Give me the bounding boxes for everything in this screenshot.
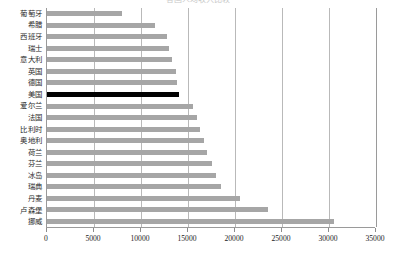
bar xyxy=(47,34,167,39)
axis-tick-label: 25000 xyxy=(272,234,291,243)
category-label: 葡萄牙 xyxy=(0,8,44,20)
bar xyxy=(47,69,176,74)
bar-row xyxy=(47,169,375,181)
axis-tick xyxy=(93,228,94,232)
category-label: 冰岛 xyxy=(0,170,44,182)
axis-tick-label: 15000 xyxy=(178,234,197,243)
bar xyxy=(47,127,200,132)
category-label: 德国 xyxy=(0,77,44,89)
bar xyxy=(47,80,177,85)
category-label: 西班牙 xyxy=(0,31,44,43)
axis-tick-label: 0 xyxy=(44,234,48,243)
category-label: 希腊 xyxy=(0,20,44,32)
bar-chart: 各国人均收入比较 葡萄牙希腊西班牙瑞士意大利英国德国美国爱尔兰法国比利时奥地利荷… xyxy=(0,0,395,256)
axis-tick xyxy=(375,228,376,232)
axis-tick xyxy=(46,228,47,232)
category-label: 瑞典 xyxy=(0,182,44,194)
bar xyxy=(47,23,155,28)
category-label: 比利时 xyxy=(0,124,44,136)
bar xyxy=(47,11,122,16)
bar xyxy=(47,138,204,143)
bar-row xyxy=(47,43,375,55)
category-label: 瑞士 xyxy=(0,43,44,55)
bar-row xyxy=(47,77,375,89)
bar-series xyxy=(47,8,375,227)
axis-tick-label: 35000 xyxy=(366,234,385,243)
axis-tick-label: 10000 xyxy=(131,234,150,243)
category-label: 意大利 xyxy=(0,54,44,66)
category-label: 丹麦 xyxy=(0,193,44,205)
category-axis-labels: 葡萄牙希腊西班牙瑞士意大利英国德国美国爱尔兰法国比利时奥地利荷兰芬兰冰岛瑞典丹麦… xyxy=(0,8,44,228)
bar-row xyxy=(47,8,375,20)
bar-highlighted xyxy=(47,92,179,97)
axis-tick-label: 20000 xyxy=(225,234,244,243)
category-label: 挪威 xyxy=(0,216,44,228)
value-axis: 05000100001500020000250003000035000 xyxy=(46,228,375,254)
category-label: 奥地利 xyxy=(0,135,44,147)
bar-row xyxy=(47,20,375,32)
bar-row xyxy=(47,100,375,112)
bar xyxy=(47,104,193,109)
bar-row xyxy=(47,112,375,124)
bar-row xyxy=(47,54,375,66)
bar-row xyxy=(47,123,375,135)
plot-area xyxy=(46,8,375,228)
bar xyxy=(47,46,169,51)
axis-tick xyxy=(281,228,282,232)
category-label: 美国 xyxy=(0,89,44,101)
axis-tick xyxy=(140,228,141,232)
bar-row xyxy=(47,66,375,78)
bar-row xyxy=(47,89,375,101)
bar-row xyxy=(47,135,375,147)
bar xyxy=(47,161,212,166)
axis-tick xyxy=(187,228,188,232)
axis-tick xyxy=(234,228,235,232)
bar-row xyxy=(47,204,375,216)
bar xyxy=(47,184,221,189)
bar xyxy=(47,207,268,212)
category-label: 卢森堡 xyxy=(0,205,44,217)
category-label: 英国 xyxy=(0,66,44,78)
bar xyxy=(47,173,216,178)
category-label: 法国 xyxy=(0,112,44,124)
bar xyxy=(47,57,172,62)
chart-title: 各国人均收入比较 xyxy=(0,0,395,4)
axis-tick-label: 30000 xyxy=(319,234,338,243)
bar-row xyxy=(47,193,375,205)
axis-tick xyxy=(328,228,329,232)
bar xyxy=(47,150,207,155)
bar-row xyxy=(47,31,375,43)
gridline xyxy=(376,8,377,227)
bar-row xyxy=(47,216,375,228)
category-label: 荷兰 xyxy=(0,147,44,159)
axis-tick-label: 5000 xyxy=(85,234,100,243)
bar-row xyxy=(47,158,375,170)
bar-row xyxy=(47,146,375,158)
bar-row xyxy=(47,181,375,193)
category-label: 芬兰 xyxy=(0,159,44,171)
bar xyxy=(47,196,240,201)
category-label: 爱尔兰 xyxy=(0,101,44,113)
bar xyxy=(47,115,197,120)
bar xyxy=(47,219,334,224)
